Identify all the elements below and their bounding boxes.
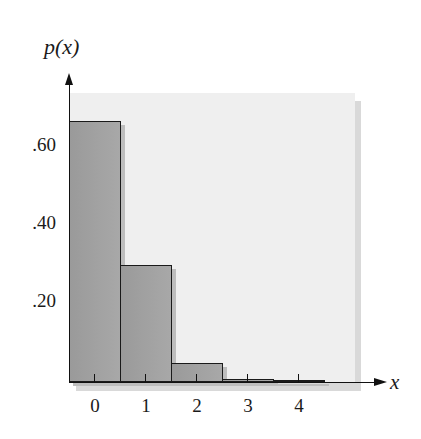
x-tick-label-2: 2 — [187, 395, 207, 417]
x-tick-label-3: 3 — [238, 395, 258, 417]
y-tick-label-40: .40 — [16, 212, 56, 234]
x-tick-label-4: 4 — [289, 395, 309, 417]
x-axis-line — [69, 382, 377, 384]
x-tick-label-1: 1 — [136, 395, 156, 417]
bar-x-0 — [69, 121, 121, 382]
y-axis-line — [69, 80, 71, 383]
y-tick-label-20: .20 — [16, 290, 56, 312]
x-axis-arrow-icon — [374, 378, 387, 386]
y-axis-title: p(x) — [44, 34, 79, 60]
bar-x-2 — [171, 363, 223, 383]
x-axis-title: x — [390, 370, 399, 395]
x-tick-label-0: 0 — [85, 395, 105, 417]
y-tick-label-60: .60 — [16, 134, 56, 156]
bar-x-1 — [120, 265, 172, 382]
y-axis-arrow-icon — [65, 73, 73, 85]
